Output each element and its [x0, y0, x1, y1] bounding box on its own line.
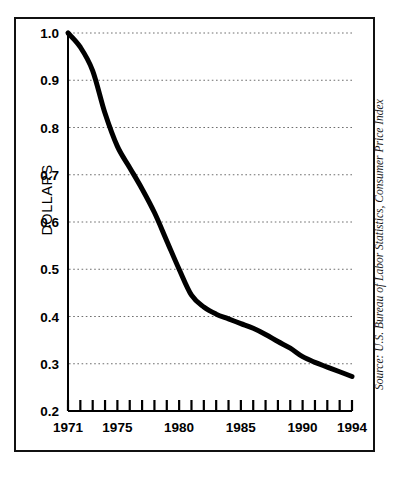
x-tick-label: 1971 — [53, 420, 84, 435]
y-tick-label: 0.2 — [40, 404, 59, 419]
y-tick-label: 0.9 — [40, 73, 59, 88]
x-tick-label: 1985 — [226, 420, 257, 435]
y-tick-label: 0.6 — [40, 215, 59, 230]
x-tick-label: 1975 — [102, 420, 133, 435]
gridlines-group — [69, 33, 352, 364]
y-tick-label: 0.8 — [40, 121, 59, 136]
figure-container: DOLLARS Source: U.S. Bureau of Labor Sta… — [0, 0, 404, 477]
y-tick-labels-group: 0.20.30.40.50.60.70.80.91.0 — [40, 26, 59, 419]
x-tick-marks-group — [68, 400, 352, 411]
x-tick-labels-group: 197119751980198519901994 — [53, 420, 368, 435]
y-tick-label: 0.7 — [40, 168, 59, 183]
data-series-line — [68, 33, 352, 377]
y-tick-label: 0.3 — [40, 357, 59, 372]
line-chart: 0.20.30.40.50.60.70.80.91.0 197119751980… — [0, 0, 404, 477]
x-tick-label: 1994 — [337, 420, 368, 435]
y-tick-label: 1.0 — [40, 26, 59, 41]
y-tick-label: 0.5 — [40, 262, 59, 277]
y-tick-label: 0.4 — [40, 310, 59, 325]
x-tick-label: 1990 — [288, 420, 318, 435]
x-tick-label: 1980 — [164, 420, 194, 435]
